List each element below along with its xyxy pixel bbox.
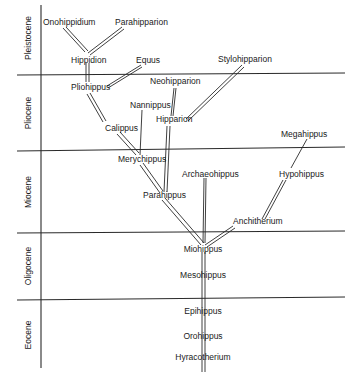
taxon-hypohippus: Hypohippus: [279, 169, 324, 179]
taxon-anchitherium: Anchitherium: [233, 216, 283, 226]
taxon-parahippus: Parahippus: [143, 190, 186, 200]
boundary-miocene-oligocene: [17, 231, 345, 233]
epoch-label-pleistocene: Pleistocene: [23, 16, 33, 60]
taxon-hipparion: Hipparion: [156, 114, 193, 124]
taxon-stylohipparion: Stylohipparion: [218, 54, 272, 64]
taxon-hippidion: Hippidion: [71, 55, 107, 65]
taxon-miohippus: Miohippus: [184, 244, 223, 254]
epoch-label-pliocene: Pliocene: [23, 96, 33, 129]
taxon-neohipparion: Neohipparion: [150, 76, 201, 86]
taxon-parahipparion: Parahipparion: [115, 17, 168, 27]
taxon-megahippus: Megahippus: [281, 129, 327, 139]
epoch-label-oligocene: Oligocene: [23, 247, 33, 286]
taxon-mesohippus: Mesohippus: [180, 270, 226, 280]
taxon-pliohippus: Pliohippus: [71, 82, 110, 92]
taxon-equus: Equus: [136, 55, 160, 65]
boundary-pliocene-miocene: [17, 147, 345, 151]
taxon-merychippus: Merychippus: [118, 154, 166, 164]
taxon-archaeohippus: Archaeohippus: [182, 169, 239, 179]
taxon-onohippidium: Onohippidium: [43, 17, 95, 27]
taxon-orohippus: Orohippus: [183, 331, 222, 341]
epoch-label-miocene: Miocene: [23, 176, 33, 208]
epoch-grid: [17, 5, 345, 368]
taxon-hyracotherium: Hyracotherium: [175, 352, 230, 362]
horse-evolution-phylogeny: Pleistocene Pliocene Miocene Oligocene E…: [0, 0, 355, 386]
boundary-pleistocene-pliocene: [17, 73, 345, 75]
taxon-epihippus: Epihippus: [184, 306, 221, 316]
boundary-oligocene-eocene: [17, 297, 345, 300]
taxon-calippus: Calippus: [105, 123, 138, 133]
taxon-nannippus: Nannippus: [130, 100, 171, 110]
epoch-label-eocene: Eocene: [23, 320, 33, 349]
